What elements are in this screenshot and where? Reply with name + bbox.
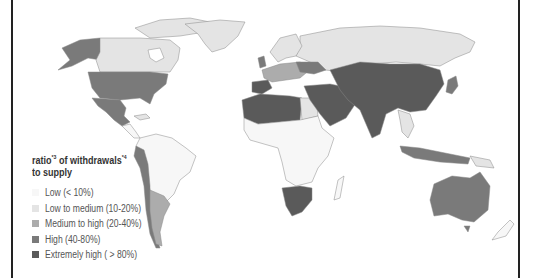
legend-title: ratio*3 of withdrawals*4 to supply <box>32 151 170 178</box>
swatch-extremely-high <box>32 251 39 258</box>
region-north-africa <box>242 94 302 124</box>
region-australia <box>430 172 490 222</box>
legend-item-medium-high: Medium to high (20-40%) <box>32 216 192 232</box>
region-sub-saharan-africa <box>244 116 334 186</box>
legend-title-line2: to supply <box>32 166 72 178</box>
region-papua <box>470 156 494 168</box>
region-tasmania <box>464 226 470 232</box>
region-spain <box>252 80 272 94</box>
legend-label: High (40-80%) <box>45 234 100 245</box>
region-new-zealand <box>492 220 514 240</box>
region-central-america <box>122 124 140 138</box>
swatch-low <box>32 189 39 196</box>
region-indonesia <box>400 146 470 164</box>
legend-item-high: High (40-80%) <box>32 232 192 248</box>
legend-title-ratio: ratio <box>32 154 52 166</box>
legend-item-low-medium: Low to medium (10-20%) <box>32 201 192 217</box>
swatch-low-medium <box>32 205 39 212</box>
legend-list: Low (< 10%) Low to medium (10-20%) Mediu… <box>32 185 192 263</box>
footnote-4: *4 <box>122 154 127 160</box>
region-uk <box>258 56 266 68</box>
region-southeast-asia <box>398 110 414 138</box>
legend-item-low: Low (< 10%) <box>32 185 192 201</box>
region-madagascar <box>334 176 344 200</box>
swatch-medium-high <box>32 220 39 227</box>
legend-label: Low (< 10%) <box>45 187 94 198</box>
map-legend: ratio*3 of withdrawals*4 to supply Low (… <box>32 151 192 263</box>
region-japan <box>446 76 458 94</box>
legend-title-withdrawals: of withdrawals <box>56 154 121 166</box>
legend-label: Extremely high ( > 80%) <box>45 249 137 260</box>
region-southern-africa <box>282 186 312 216</box>
legend-item-extremely-high: Extremely high ( > 80%) <box>32 247 192 263</box>
region-scandinavia <box>270 34 302 62</box>
swatch-high <box>32 236 39 243</box>
legend-label: Low to medium (10-20%) <box>45 203 141 214</box>
region-mexico <box>92 98 130 126</box>
region-canada <box>96 38 180 72</box>
region-greenland <box>185 20 245 52</box>
legend-label: Medium to high (20-40%) <box>45 218 142 229</box>
